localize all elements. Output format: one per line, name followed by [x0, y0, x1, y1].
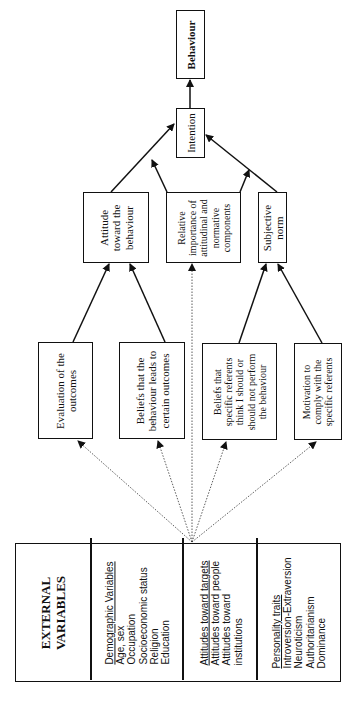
- group-item: Age, sex: [115, 561, 126, 664]
- node-motivation-line: specific referents: [324, 357, 335, 426]
- group-item: Introversion-Extraversion: [282, 557, 293, 668]
- group-heading: Attitudes toward targets: [198, 560, 209, 665]
- group-item: institutions: [232, 560, 243, 665]
- node-beliefs-behaviour-line: certain outcomes: [158, 350, 170, 431]
- group-item: Neuroticism: [293, 557, 304, 668]
- group-item: Attitudes toward: [221, 560, 232, 665]
- node-intention-label: Intention: [184, 113, 196, 153]
- group-attitudes: Attitudes toward targets Attitudes towar…: [184, 544, 257, 681]
- node-relative-importance-line: components: [220, 199, 231, 257]
- group-demographic: Demographic Variables Age, sex Occupatio…: [92, 544, 183, 681]
- node-evaluation: Evaluation of the outcomes: [38, 342, 93, 439]
- node-beliefs-referents-line: should not perform: [245, 353, 256, 430]
- node-relative-importance-line: importance of: [187, 199, 198, 257]
- external-variables-title-cell: EXTERNAL VARIABLES: [16, 544, 91, 681]
- node-motivation-line: comply with the: [312, 357, 323, 426]
- group-personality: Personality traits Introversion-Extraver…: [258, 544, 340, 681]
- node-relative-importance-line: Relative: [176, 199, 187, 257]
- node-attitude-line: Attitude: [98, 204, 110, 251]
- node-attitude-line: behaviour: [122, 204, 134, 251]
- group-item: Religion: [149, 561, 160, 664]
- group-item: Dominance: [316, 557, 327, 668]
- node-relative-importance-line: normative: [209, 199, 220, 257]
- node-beliefs-referents: Beliefs that specific referents think I …: [202, 343, 277, 440]
- node-relative-importance-line: attitudinal and: [198, 199, 209, 257]
- node-beliefs-behaviour-line: behaviour leads to: [146, 350, 158, 431]
- group-item: Occupation: [126, 561, 137, 664]
- group-item: Attitudes toward people: [209, 560, 220, 665]
- node-beliefs-behaviour: Beliefs that the behaviour leads to cert…: [119, 342, 185, 439]
- group-item: Socioeconomic status: [138, 561, 149, 664]
- node-subjective-norm-line: Subjective: [260, 204, 272, 250]
- node-beliefs-behaviour-line: Beliefs that the: [134, 350, 146, 431]
- node-subjective-norm: Subjective norm: [258, 192, 287, 263]
- group-item: Authoritarianism: [305, 557, 316, 668]
- group-heading: Personality traits: [271, 557, 282, 668]
- node-evaluation-line: outcomes: [66, 353, 78, 429]
- external-variables-box: EXTERNAL VARIABLES Demographic Variables…: [15, 543, 341, 682]
- node-relative-importance: Relative importance of attitudinal and n…: [166, 192, 241, 263]
- node-attitude-line: toward the: [110, 204, 122, 251]
- node-beliefs-referents-line: think I should or: [234, 353, 245, 430]
- node-behaviour: Behaviour: [176, 10, 205, 79]
- node-motivation-line: Motivation to: [301, 357, 312, 426]
- group-item: Education: [160, 561, 171, 664]
- node-motivation: Motivation to comply with the specific r…: [294, 343, 342, 440]
- node-attitude: Attitude toward the behaviour: [83, 192, 149, 263]
- node-evaluation-line: Evaluation of the: [53, 353, 65, 429]
- node-subjective-norm-line: norm: [273, 204, 285, 250]
- node-beliefs-referents-line: the behaviour: [256, 353, 267, 430]
- external-variables-title-line: EXTERNAL: [39, 575, 54, 649]
- node-beliefs-referents-line: specific referents: [223, 353, 234, 430]
- node-behaviour-label: Behaviour: [184, 20, 196, 69]
- group-heading: Demographic Variables: [104, 561, 115, 664]
- external-variables-title-line: VARIABLES: [54, 575, 69, 649]
- node-beliefs-referents-line: Beliefs that: [212, 353, 223, 430]
- node-intention: Intention: [176, 108, 205, 158]
